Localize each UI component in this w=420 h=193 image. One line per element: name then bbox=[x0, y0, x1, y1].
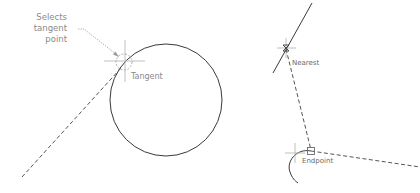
nearest-endpoint-snap-example: Nearest Endpoint bbox=[273, 3, 420, 183]
snap-diagram: Selects tangent point Tangent Near bbox=[0, 0, 420, 193]
tangent-dashed-line bbox=[22, 68, 121, 177]
annotation-line-1: Selects bbox=[36, 12, 67, 22]
arc bbox=[289, 151, 311, 183]
annotation-line-2: tangent bbox=[34, 23, 68, 33]
leader-arrow-icon bbox=[78, 29, 119, 57]
nearest-snap-label: Nearest bbox=[292, 59, 320, 67]
annotation-line-3: point bbox=[45, 34, 67, 44]
tangent-snap-example: Selects tangent point Tangent bbox=[22, 12, 222, 177]
tangent-snap-label: Tangent bbox=[130, 72, 163, 81]
endpoint-snap-label: Endpoint bbox=[302, 157, 333, 165]
